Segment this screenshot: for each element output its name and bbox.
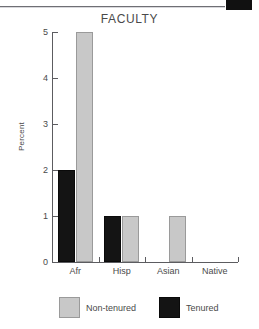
- y-axis-label: 3: [32, 120, 48, 129]
- y-axis-title: Percent: [17, 107, 26, 167]
- x-axis-label-afr: Afr: [52, 266, 98, 276]
- y-axis-label: 5: [32, 28, 48, 37]
- bar-non-tenured-asian: [169, 216, 186, 262]
- chart-title: FACULTY: [0, 12, 259, 26]
- bar-non-tenured-hisp: [122, 216, 139, 262]
- y-axis-label: 4: [32, 74, 48, 83]
- x-axis-tick: [192, 257, 193, 262]
- x-axis-line: [52, 262, 238, 263]
- legend-label-non-tenured: Non-tenured: [86, 303, 136, 313]
- x-axis-tick: [238, 257, 239, 262]
- y-axis-tick: [53, 78, 58, 79]
- y-axis-tick: [53, 262, 58, 263]
- x-axis-tick: [145, 257, 146, 262]
- bar-tenured-afr: [58, 170, 75, 262]
- y-axis-tick: [53, 124, 58, 125]
- x-axis-label-hisp: Hisp: [99, 266, 145, 276]
- chart-legend: Non-tenured Tenured: [0, 297, 259, 325]
- y-axis-label: 2: [32, 166, 48, 175]
- legend-item-tenured: Tenured: [159, 297, 219, 318]
- bar-tenured-hisp: [104, 216, 121, 262]
- legend-swatch-non-tenured: [59, 297, 80, 318]
- x-axis-label-asian: Asian: [145, 266, 191, 276]
- y-axis-label: 0: [32, 258, 48, 267]
- legend-item-non-tenured: Non-tenured: [59, 297, 136, 318]
- legend-swatch-tenured: [159, 297, 180, 318]
- legend-label-tenured: Tenured: [186, 303, 219, 313]
- corner-block: [226, 0, 252, 10]
- y-axis-label: 1: [32, 212, 48, 221]
- bar-non-tenured-afr: [76, 32, 93, 262]
- header-rule-shadow: [0, 7, 225, 8]
- x-axis-label-native: Native: [192, 266, 238, 276]
- y-axis-line: [52, 32, 53, 263]
- x-axis-tick: [99, 257, 100, 262]
- y-axis-tick: [53, 32, 58, 33]
